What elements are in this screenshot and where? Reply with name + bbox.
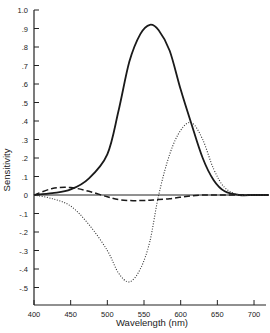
y-tick-label: 1.0 <box>18 6 28 15</box>
y-tick-label: .5 <box>22 99 28 108</box>
series-group <box>34 25 269 282</box>
series-solid-line <box>34 25 269 196</box>
y-tick-label: .4 <box>22 117 28 126</box>
y-tick-label: .9 <box>22 25 28 34</box>
y-tick-label: .2 <box>22 154 28 163</box>
axes <box>34 10 266 305</box>
y-tick-label: .7 <box>22 62 28 71</box>
y-tick-label: -.3 <box>19 247 28 256</box>
y-tick-label: 0 <box>24 191 28 200</box>
y-tick-label: -.2 <box>19 228 28 237</box>
x-axis-label: Wavelength (nm) <box>116 317 188 328</box>
x-tick-label: 450 <box>64 310 77 319</box>
y-tick-label: .6 <box>22 80 28 89</box>
x-tick-label: 500 <box>101 310 114 319</box>
x-tick-label: 650 <box>211 310 224 319</box>
series-dotted-line <box>34 122 269 282</box>
y-tick-label: .8 <box>22 43 28 52</box>
tick-labels: 1.0.9.8.7.6.5.4.3.2.10-.1-.2-.3-.4-.5400… <box>18 6 261 319</box>
y-tick-label: -.5 <box>19 284 28 293</box>
x-tick-label: 700 <box>248 310 261 319</box>
x-tick-label: 400 <box>28 310 41 319</box>
y-tick-label: .3 <box>22 136 28 145</box>
y-tick-label: .1 <box>22 173 28 182</box>
y-tick-label: -.1 <box>19 210 28 219</box>
y-tick-label: -.4 <box>19 265 28 274</box>
y-axis-label: Sensitivity <box>1 148 12 191</box>
sensitivity-chart: 1.0.9.8.7.6.5.4.3.2.10-.1-.2-.3-.4-.5400… <box>0 0 270 333</box>
